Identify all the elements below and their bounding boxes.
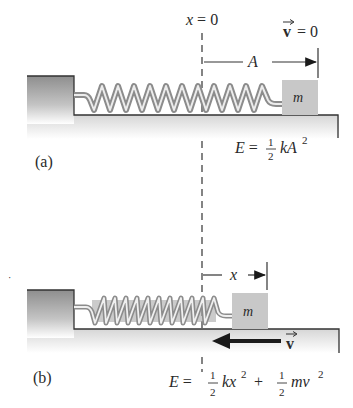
velocity-label-a: v = 0	[283, 20, 318, 41]
svg-text:2: 2	[241, 368, 247, 380]
velocity-vector-symbol-a: v	[283, 23, 291, 40]
panel-label-a: (a)	[35, 153, 53, 171]
origin-label: x = 0	[185, 11, 218, 28]
svg-text:kA: kA	[280, 139, 297, 156]
panel-b: · m x v (b) E =	[8, 262, 339, 398]
svg-text:2: 2	[279, 386, 285, 398]
stray-dot: ·	[8, 272, 11, 283]
svg-text:+: +	[254, 373, 263, 390]
amplitude-label-a: A	[247, 53, 258, 70]
energy-equation-a: E = 1 2 kA 2	[234, 134, 308, 162]
panel-label-b: (b)	[33, 369, 52, 387]
svg-text:2: 2	[302, 134, 308, 146]
velocity-value-a: = 0	[297, 23, 318, 40]
svg-text:2: 2	[210, 386, 216, 398]
mass-label-b: m	[243, 304, 253, 319]
spring-diagram: x = 0 m A v = 0 (a) E = 1	[0, 0, 353, 408]
velocity-vector-symbol-b: v	[286, 335, 294, 352]
spring-a	[74, 86, 282, 110]
svg-text:2: 2	[268, 150, 274, 162]
svg-text:E =: E =	[234, 139, 258, 156]
panel-a: m A v = 0 (a) E = 1 2 kA 2	[27, 20, 339, 172]
svg-text:mv: mv	[291, 373, 311, 390]
spring-b	[74, 298, 232, 323]
svg-text:1: 1	[268, 136, 274, 148]
wall-b	[27, 290, 74, 338]
svg-text:1: 1	[210, 369, 216, 381]
wall-a	[27, 76, 74, 124]
svg-text:kx: kx	[222, 373, 236, 390]
energy-equation-b: E = 1 2 kx 2 + 1 2 mv 2	[168, 368, 324, 398]
svg-text:1: 1	[279, 369, 285, 381]
svg-text:E =: E =	[168, 373, 192, 390]
mass-label-a: m	[293, 90, 303, 105]
svg-text:2: 2	[318, 368, 324, 380]
displacement-label-b: x	[229, 266, 237, 283]
